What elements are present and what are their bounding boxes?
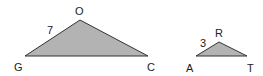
vertex-label-r: R: [215, 27, 223, 39]
vertex-label-t: T: [247, 62, 254, 74]
side-label-go: 7: [47, 24, 53, 36]
vertex-label-c: C: [147, 61, 155, 73]
side-label-ar: 3: [200, 37, 206, 49]
similar-triangles-diagram: O G C 7 R A T 3: [0, 0, 263, 76]
vertex-label-a: A: [186, 62, 194, 74]
vertex-label-o: O: [75, 5, 84, 17]
triangle-goc: [25, 20, 148, 56]
vertex-label-g: G: [14, 61, 23, 73]
